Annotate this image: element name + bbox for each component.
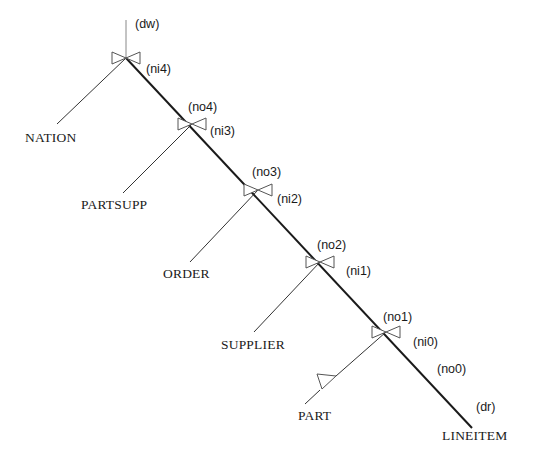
edge-partsupp [123, 124, 192, 193]
label-no1: (no1) [383, 310, 412, 324]
label-ni3: (ni3) [210, 124, 235, 138]
table-order: ORDER [163, 266, 210, 282]
label-no2: (no2) [317, 238, 346, 252]
table-lineitem: LINEITEM [442, 428, 507, 444]
edge-part-upper [336, 332, 386, 376]
label-ni4: (ni4) [146, 62, 171, 76]
join-tree-diagram [0, 0, 539, 466]
edge-part-lower [305, 390, 320, 404]
edge-nation [57, 58, 126, 124]
label-no4: (no4) [188, 100, 217, 114]
edge-supplier [254, 262, 320, 332]
label-dr: (dr) [476, 400, 495, 414]
label-no0: (no0) [437, 362, 466, 376]
table-supplier: SUPPLIER [221, 337, 285, 353]
main-pipeline-edge [126, 58, 472, 428]
table-partsupp: PARTSUPP [81, 197, 147, 213]
label-ni2: (ni2) [277, 192, 302, 206]
label-ni1: (ni1) [346, 264, 371, 278]
edge-order [190, 190, 258, 262]
filter-triangle-icon [317, 374, 336, 389]
table-nation: NATION [25, 130, 76, 146]
label-no3: (no3) [252, 165, 281, 179]
label-dw: (dw) [135, 17, 159, 31]
join-bowtie-icon [244, 184, 272, 196]
label-ni0: (ni0) [413, 335, 438, 349]
table-part: PART [298, 408, 331, 424]
